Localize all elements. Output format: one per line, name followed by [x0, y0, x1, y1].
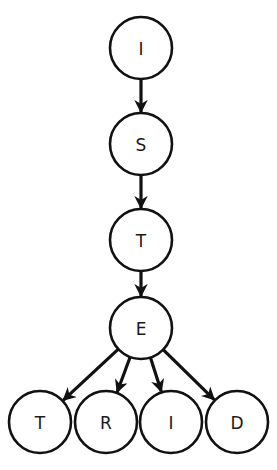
tree-node: T — [110, 209, 172, 271]
node-label: T — [34, 413, 46, 433]
node-label: I — [168, 413, 173, 433]
tree-node: S — [110, 113, 172, 175]
tree-node: T — [9, 391, 71, 453]
tree-node: I — [110, 17, 172, 79]
edge-arrow — [150, 358, 161, 392]
tree-node: D — [206, 391, 268, 453]
edge-arrow — [117, 357, 130, 392]
tree-node: R — [75, 391, 137, 453]
node-label: I — [138, 39, 143, 59]
tree-node: I — [140, 391, 202, 453]
tree-node: E — [110, 297, 172, 359]
node-label: R — [100, 413, 112, 433]
node-label: E — [136, 319, 147, 339]
node-label: T — [135, 231, 147, 251]
nodes-group: ISTETRID — [9, 17, 268, 453]
tree-diagram: ISTETRID — [0, 0, 277, 470]
node-label: S — [136, 135, 147, 155]
node-label: D — [230, 413, 243, 433]
